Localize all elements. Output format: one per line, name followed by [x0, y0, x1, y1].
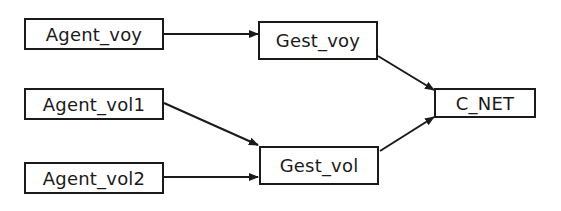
node-gest-voy: Gest_voy	[258, 21, 378, 60]
node-agent-vol1: Agent_vol1	[24, 88, 164, 120]
edge-gest-vol-to-c-net	[380, 117, 434, 151]
node-c-net: C_NET	[434, 88, 536, 118]
edge-agent-vol1-to-gest-vol	[164, 103, 258, 145]
node-agent-voy: Agent_voy	[24, 18, 164, 50]
edge-gest-voy-to-c-net	[378, 56, 434, 90]
node-agent-vol2: Agent_vol2	[24, 162, 164, 194]
node-gest-vol: Gest_vol	[259, 146, 379, 185]
